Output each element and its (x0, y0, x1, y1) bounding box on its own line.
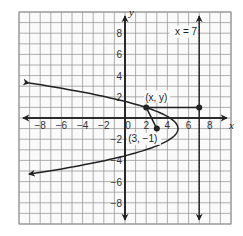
x-tick-label: −4 (77, 120, 89, 131)
x-tick-label: 4 (165, 120, 171, 131)
point-marker (196, 104, 202, 110)
y-tick-label: −2 (111, 134, 123, 145)
point-marker (143, 104, 149, 110)
x-tick-label: −8 (34, 120, 46, 131)
y-axis-label: y (128, 6, 134, 18)
y-tick-label: −8 (111, 198, 123, 209)
coordinate-plane: xy −8−6−4−2024688642−2−4−6−8 (x, y)(3, −… (0, 0, 243, 236)
x-tick-label: −6 (56, 120, 68, 131)
x-axis-label: x (228, 119, 234, 131)
x-tick-label: 0 (125, 120, 131, 131)
x-tick-label: 8 (207, 120, 213, 131)
y-tick-label: 4 (116, 71, 122, 82)
y-tick-label: 6 (116, 49, 122, 60)
directrix-label: x = 7 (175, 26, 197, 37)
x-tick-label: 6 (186, 120, 192, 131)
focus-label: (3, −1) (128, 133, 157, 144)
y-tick-label: −6 (111, 177, 123, 188)
x-tick-label: 2 (143, 120, 149, 131)
y-tick-label: 8 (116, 28, 122, 39)
point-marker (154, 126, 160, 132)
x-tick-label: −2 (98, 120, 110, 131)
point-xy-label: (x, y) (145, 92, 167, 103)
